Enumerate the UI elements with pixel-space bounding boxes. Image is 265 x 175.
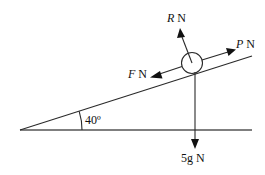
f-force-label: F N [127, 67, 147, 81]
r-force-label: R N [166, 11, 186, 25]
p-force-line [202, 52, 228, 60]
f-force-arrowhead [150, 71, 163, 79]
force-diagram: 40º 5g N P N F N R N [0, 0, 265, 175]
r-force-arrowhead [177, 28, 185, 38]
weight-label: 5g N [181, 151, 205, 165]
p-force-label: P N [235, 37, 255, 51]
angle-label: 40º [85, 113, 101, 127]
angle-arc [79, 111, 82, 130]
f-force-line [158, 67, 182, 75]
weight-arrowhead [191, 139, 199, 149]
p-force-arrowhead [226, 48, 236, 56]
r-force-line [182, 37, 192, 63]
